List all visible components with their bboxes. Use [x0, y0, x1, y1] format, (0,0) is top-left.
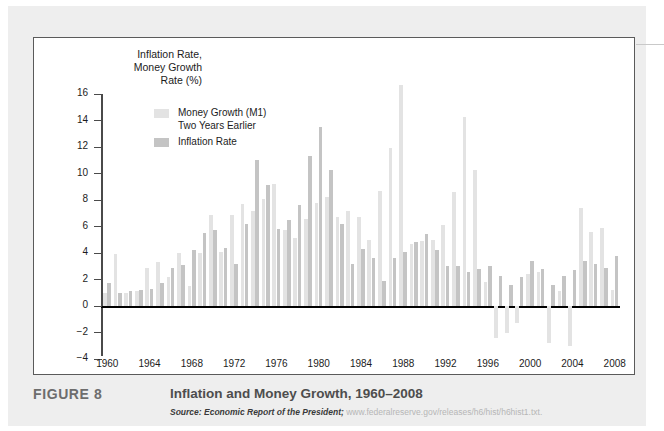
chart-bar	[604, 268, 608, 306]
chart-bar	[340, 224, 344, 306]
chart-bar	[568, 306, 572, 346]
y-axis-tick	[94, 332, 102, 333]
x-axis-tick-label: 2000	[510, 358, 550, 369]
figure-number: FIGURE 8	[33, 386, 102, 402]
chart-bar	[615, 256, 619, 306]
page-edge-rule	[636, 44, 664, 45]
y-axis-tick	[94, 226, 102, 227]
chart-bar	[579, 208, 583, 306]
x-axis-tick-label: 1988	[383, 358, 423, 369]
chart-bar	[463, 117, 467, 306]
x-axis-tick-label: 2008	[595, 358, 635, 369]
chart-bar	[272, 184, 276, 306]
chart-bar	[103, 293, 107, 306]
y-axis-tick	[94, 94, 102, 95]
y-axis-tick-label: −4	[48, 352, 88, 363]
chart-bar	[177, 253, 181, 306]
chart-panel: Inflation Rate, Money Growth Rate (%) Mo…	[33, 37, 635, 375]
chart-bar	[129, 291, 133, 306]
x-axis-tick-label: 1996	[468, 358, 508, 369]
chart-bar	[399, 85, 403, 306]
chart-bar	[198, 253, 202, 306]
chart-bar	[526, 274, 530, 306]
x-axis-tick-label: 1992	[426, 358, 466, 369]
chart-bar	[410, 244, 414, 306]
chart-bar	[262, 199, 266, 306]
chart-bar	[241, 204, 245, 306]
chart-bar	[573, 270, 577, 306]
y-axis-tick-label: 10	[48, 167, 88, 178]
y-axis-tick-label: 12	[48, 140, 88, 151]
chart-bar	[372, 258, 376, 306]
chart-bar	[509, 285, 513, 306]
chart-bar	[425, 234, 429, 306]
y-axis-tick-label: 2	[48, 273, 88, 284]
chart-bar	[251, 211, 255, 306]
y-axis-tick	[94, 147, 102, 148]
chart-bar	[209, 215, 213, 306]
y-axis-tick	[94, 120, 102, 121]
y-axis-tick-label: 16	[48, 87, 88, 98]
chart-bar	[107, 283, 111, 306]
chart-bar	[245, 224, 249, 306]
x-axis-tick-label: 1984	[341, 358, 381, 369]
x-axis-tick-label: 1960	[87, 358, 127, 369]
chart-bar	[266, 185, 270, 306]
chart-bar	[219, 252, 223, 306]
chart-bar	[551, 285, 555, 306]
chart-bar	[304, 219, 308, 306]
chart-bar	[441, 225, 445, 306]
source-url[interactable]: www.federalreserve.gov/releases/h6/hist/…	[346, 407, 542, 417]
chart-bar	[167, 277, 171, 306]
chart-bar	[558, 291, 562, 306]
chart-bar	[611, 290, 615, 306]
chart-bar	[467, 272, 471, 306]
chart-bar	[319, 127, 323, 306]
chart-bar	[515, 306, 519, 323]
chart-bar	[547, 306, 551, 343]
chart-bar	[473, 170, 477, 306]
chart-bar	[505, 306, 509, 333]
chart-bar	[293, 238, 297, 306]
chart-bar	[393, 258, 397, 306]
chart-bar	[213, 230, 217, 306]
chart-bar	[346, 211, 350, 306]
figure-source: Source: Economic Report of the President…	[170, 407, 542, 417]
chart-bar	[336, 217, 340, 306]
chart-bar	[298, 205, 302, 306]
x-axis-tick-label: 1964	[130, 358, 170, 369]
chart-bar	[224, 248, 228, 306]
chart-bar	[583, 261, 587, 306]
page-right-margin	[646, 0, 664, 431]
chart-bar	[435, 250, 439, 306]
figure-title: Inflation and Money Growth, 1960–2008	[170, 386, 423, 401]
y-axis-tick	[94, 173, 102, 174]
chart-bar	[431, 240, 435, 306]
y-axis-tick	[94, 200, 102, 201]
chart-bar	[520, 277, 524, 306]
chart-bar	[171, 268, 175, 306]
chart-bar	[499, 276, 503, 306]
chart-bar	[403, 252, 407, 306]
chart-bar	[420, 241, 424, 306]
chart-bar	[351, 264, 355, 306]
x-axis-tick-label: 1980	[299, 358, 339, 369]
chart-bar	[150, 289, 154, 306]
chart-bar	[181, 265, 185, 306]
chart-bar	[530, 261, 534, 306]
y-axis-tick-label: 14	[48, 114, 88, 125]
chart-bar	[118, 293, 122, 306]
chart-bar	[255, 160, 259, 306]
chart-bar	[382, 281, 386, 306]
x-axis-tick-label: 2004	[552, 358, 592, 369]
chart-bar	[562, 276, 566, 306]
y-axis-tick-label: 4	[48, 246, 88, 257]
chart-bar	[361, 249, 365, 306]
y-axis-tick	[94, 279, 102, 280]
chart-bar	[192, 250, 196, 306]
chart-bar	[315, 203, 319, 306]
chart-bar	[488, 266, 492, 306]
zero-baseline	[101, 306, 620, 308]
chart-bar	[600, 228, 604, 306]
chart-bar	[389, 148, 393, 306]
